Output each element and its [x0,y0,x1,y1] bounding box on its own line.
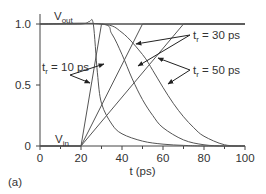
arrow-tr50-vin [158,58,190,70]
vout-label: Vout [54,10,74,25]
y-tick-label: 0.5 [15,79,31,91]
tr-10ps-label: tr = 10 ps [42,61,89,76]
x-tick-label: 0 [37,152,43,164]
x-axis-label: t (ps) [129,165,155,177]
x-tick-label: 40 [116,152,129,164]
x-tick-label: 100 [235,152,254,164]
transient-response-chart: 02040608010000.51.0t (ps)(a) VoutVintr =… [0,0,266,194]
panel-label: (a) [8,176,22,188]
curve-vin-tr-30-ps [40,24,245,146]
curve-vin-tr-10-ps [40,24,245,146]
tr-30ps-label: tr = 30 ps [193,29,240,44]
curve-vout-tr-30-ps [40,23,245,146]
y-tick-label: 1.0 [15,18,31,30]
x-tick-label: 80 [198,152,211,164]
arrow-tr10-vout [70,75,90,83]
curve-vout-tr-50-ps [40,23,245,146]
y-tick-label: 0 [25,140,31,152]
curve-vin-tr-50-ps [40,24,245,146]
arrow-tr50-vout [168,70,190,84]
tr-50ps-label: tr = 50 ps [193,64,240,79]
x-tick-label: 60 [157,152,170,164]
x-tick-label: 20 [75,152,88,164]
annotations: VoutVintr = 10 pstr = 30 pstr = 50 ps [42,10,240,148]
